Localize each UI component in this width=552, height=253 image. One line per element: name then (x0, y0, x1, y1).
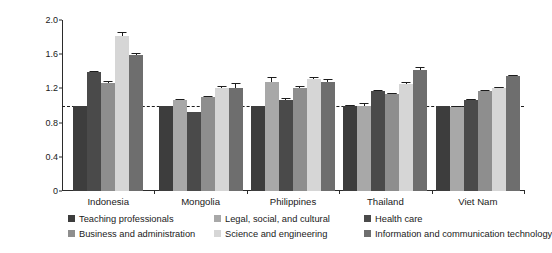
bar[interactable] (293, 88, 307, 191)
bar[interactable] (464, 100, 478, 191)
legend-item[interactable]: Science and engineering (214, 229, 364, 239)
bar-slot (251, 20, 265, 191)
bar[interactable] (492, 88, 506, 191)
bar-slot (385, 20, 399, 191)
bar[interactable] (450, 107, 464, 191)
x-axis-group-label: Mongolia (181, 196, 220, 207)
bar-slot (321, 20, 335, 191)
bar[interactable] (413, 70, 427, 191)
bar[interactable] (115, 36, 129, 191)
bar[interactable] (321, 82, 335, 191)
bar-slot (87, 20, 101, 191)
bar[interactable] (187, 112, 201, 191)
bar[interactable] (506, 76, 520, 191)
x-axis-tick-mark (432, 190, 433, 194)
x-axis-tick-mark (154, 190, 155, 194)
x-axis-tick-mark (339, 190, 340, 194)
x-axis-group-label: Philippines (270, 196, 316, 207)
x-axis-group-label: Indonesia (87, 196, 129, 207)
bar[interactable] (436, 106, 450, 191)
bar[interactable] (173, 100, 187, 191)
bar[interactable] (101, 83, 115, 191)
bar-slot (293, 20, 307, 191)
bar-slot (399, 20, 413, 191)
legend-item-label: Information and communication technology (375, 229, 552, 239)
legend-item[interactable]: Information and communication technology (364, 229, 552, 239)
legend-item-label: Legal, social, and cultural (225, 214, 330, 224)
y-axis-tick-label: 1.6 (45, 50, 58, 59)
error-bar-cap-top (104, 81, 113, 82)
x-axis-tick-mark (524, 190, 525, 194)
bar[interactable] (129, 55, 143, 191)
bar[interactable] (399, 84, 413, 191)
legend-item-label: Business and administration (79, 229, 195, 239)
bar[interactable] (265, 82, 279, 191)
bar[interactable] (343, 106, 357, 192)
bar-group (247, 20, 339, 191)
bar[interactable] (87, 72, 101, 191)
error-bar-cap-top (132, 53, 141, 54)
bar-slot (115, 20, 129, 191)
y-axis-tick-label: 0.8 (45, 118, 58, 127)
y-axis-tick-label: 0 (53, 187, 58, 196)
bar[interactable] (201, 97, 215, 191)
bar[interactable] (357, 106, 371, 192)
x-axis-group-label: Thailand (367, 196, 404, 207)
x-axis-tick-mark (247, 190, 248, 194)
bar[interactable] (229, 88, 243, 191)
bar-slot (101, 20, 115, 191)
bar[interactable] (478, 91, 492, 191)
legend-swatch-icon (214, 230, 221, 237)
bar[interactable] (215, 88, 229, 191)
bar[interactable] (385, 94, 399, 191)
legend-item-label: Health care (375, 214, 423, 224)
chart-legend: Teaching professionalsLegal, social, and… (68, 211, 528, 241)
legend-swatch-icon (364, 215, 371, 222)
bar-slot (371, 20, 385, 191)
error-bar-cap-top (217, 86, 226, 87)
y-axis-tick-label: 2.0 (45, 16, 58, 25)
legend-swatch-icon (214, 215, 221, 222)
legend-swatch-icon (364, 230, 371, 237)
bar-slot (450, 20, 464, 191)
legend-swatch-icon (68, 215, 75, 222)
bar[interactable] (251, 106, 265, 191)
error-bar-cap-top (360, 103, 369, 104)
bar-slot (506, 20, 520, 191)
bar-slot (265, 20, 279, 191)
error-bar-cap-top (231, 83, 240, 84)
bar[interactable] (159, 106, 173, 192)
error-bar-cap-top (416, 67, 425, 68)
bar-slot (436, 20, 450, 191)
legend-item[interactable]: Health care (364, 214, 552, 224)
legend-item[interactable]: Legal, social, and cultural (214, 214, 364, 224)
bar-slot (413, 20, 427, 191)
bar[interactable] (279, 100, 293, 191)
bar-slot (357, 20, 371, 191)
legend-item[interactable]: Business and administration (68, 229, 214, 239)
bar-slot (201, 20, 215, 191)
bar[interactable] (73, 106, 87, 192)
bar-slot (159, 20, 173, 191)
bar-group (432, 20, 524, 191)
error-bar-cap-top (323, 79, 332, 80)
bar-groups (62, 20, 524, 191)
bar-slot (229, 20, 243, 191)
bar-group (62, 20, 154, 191)
legend-item-label: Science and engineering (225, 229, 327, 239)
bar-slot (129, 20, 143, 191)
x-axis-group-label: Viet Nam (458, 196, 497, 207)
bar-slot (187, 20, 201, 191)
bar-slot (343, 20, 357, 191)
bar-slot (215, 20, 229, 191)
bar-slot (279, 20, 293, 191)
bar-slot (73, 20, 87, 191)
plot-area: 00.40.81.21.62.0 (62, 20, 524, 191)
bar-group (339, 20, 431, 191)
legend-item[interactable]: Teaching professionals (68, 214, 214, 224)
error-bar-cap-top (118, 32, 127, 33)
bar[interactable] (371, 91, 385, 191)
bar[interactable] (307, 79, 321, 191)
legend-swatch-icon (68, 230, 75, 237)
